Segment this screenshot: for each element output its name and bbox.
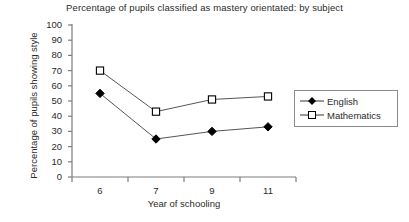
legend-item-english[interactable]: English <box>299 94 393 108</box>
series-line-mathematics <box>100 71 268 112</box>
x-tick-label: 6 <box>85 185 115 196</box>
legend-label-english: English <box>325 96 358 107</box>
data-point-mathematics-7[interactable] <box>152 108 159 115</box>
x-tick-label: 9 <box>197 185 227 196</box>
data-point-mathematics-11[interactable] <box>264 93 271 100</box>
y-tick-label: 40 <box>36 110 62 121</box>
y-tick-label: 20 <box>36 141 62 152</box>
y-tick-label: 50 <box>36 95 62 106</box>
series-line-english <box>100 93 268 139</box>
axes <box>68 24 296 182</box>
data-point-mathematics-9[interactable] <box>208 96 215 103</box>
x-tick-label: 11 <box>253 185 283 196</box>
y-tick-label: 0 <box>36 171 62 182</box>
y-tick-label: 100 <box>36 19 62 30</box>
y-tick-label: 10 <box>36 156 62 167</box>
chart-legend: English Mathematics <box>294 90 398 127</box>
y-tick-label: 80 <box>36 49 62 60</box>
y-tick-label: 70 <box>36 65 62 76</box>
chart-container: Percentage of pupils classified as maste… <box>0 0 409 222</box>
y-tick-label: 90 <box>36 34 62 45</box>
y-tick-label: 60 <box>36 80 62 91</box>
y-tick-label: 30 <box>36 125 62 136</box>
data-point-mathematics-6[interactable] <box>96 67 103 74</box>
data-series-layer <box>96 67 272 143</box>
data-point-english-11[interactable] <box>264 123 272 131</box>
filled-diamond-icon <box>299 95 325 107</box>
legend-label-mathematics: Mathematics <box>325 110 381 121</box>
x-tick-label: 7 <box>141 185 171 196</box>
legend-item-mathematics[interactable]: Mathematics <box>299 108 393 122</box>
data-point-english-9[interactable] <box>208 127 216 135</box>
open-square-icon <box>299 109 325 121</box>
